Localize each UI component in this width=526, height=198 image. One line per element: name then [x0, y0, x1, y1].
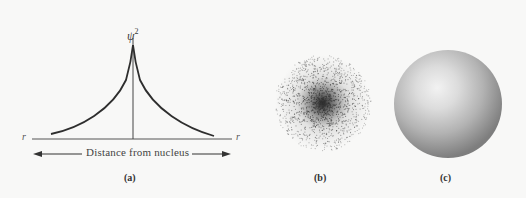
electron-cloud: [275, 55, 372, 151]
psi-squared-label: ψ2: [127, 28, 138, 44]
orbital-sphere: [394, 50, 502, 158]
panel-b-label: (b): [314, 172, 326, 183]
panel-a-label: (a): [124, 172, 136, 183]
arrow-left-icon: [33, 151, 42, 157]
arrow-right-icon: [222, 151, 231, 157]
orbital-figure: ψ2 r r Distance from nucleus (a) (b) (c): [0, 0, 526, 198]
panel-a-plot: [0, 0, 526, 198]
r-left-label: r: [22, 131, 26, 142]
distance-caption: Distance from nucleus: [83, 146, 192, 158]
r-right-label: r: [236, 131, 240, 142]
panel-c-label: (c): [440, 172, 451, 183]
